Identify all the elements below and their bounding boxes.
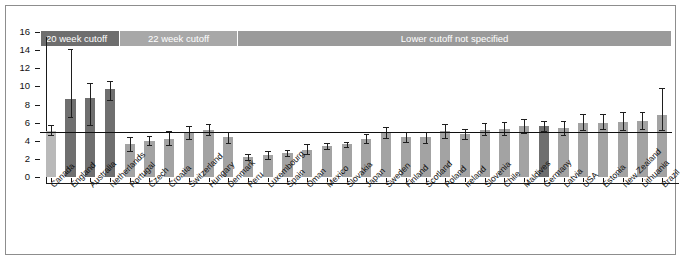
y-axis-tick [35, 105, 40, 106]
error-bar-cap-upper [245, 154, 251, 155]
y-axis-tick-label: 10 [8, 81, 30, 90]
y-axis-tick-label: 12 [8, 63, 30, 72]
error-bar [583, 114, 584, 130]
error-bar-cap-upper [364, 134, 370, 135]
y-axis-tick [35, 86, 40, 87]
y-axis-tick [35, 32, 40, 33]
y-axis-tick-label: 14 [8, 45, 30, 54]
reference-line [40, 132, 672, 134]
error-bar-cap-upper [265, 151, 271, 152]
error-bar-cap-upper [521, 119, 527, 120]
y-axis-tick [35, 159, 40, 160]
error-bar-cap-upper [462, 129, 468, 130]
bar [46, 131, 56, 177]
error-bar-cap-upper [344, 142, 350, 143]
y-axis-tick [35, 50, 40, 51]
error-bar-cap-lower [147, 145, 153, 146]
error-bar-cap-lower [600, 129, 606, 130]
y-axis-tick-label: 2 [8, 154, 30, 163]
error-bar [642, 112, 643, 129]
error-bar-cap-lower [324, 149, 330, 150]
error-bar-cap-lower [186, 139, 192, 140]
y-axis-tick [35, 123, 40, 124]
error-bar-cap-lower [383, 138, 389, 139]
error-bar-cap-upper [383, 127, 389, 128]
error-bar [465, 129, 466, 139]
error-bar-cap-upper [580, 114, 586, 115]
error-bar-cap-lower [640, 129, 646, 130]
error-bar-cap-upper [620, 112, 626, 113]
y-axis-tick-label: 16 [8, 27, 30, 36]
y-axis-tick [35, 141, 40, 142]
error-bar-cap-upper [502, 122, 508, 123]
error-bar-cap-lower [107, 100, 113, 101]
figure-frame: 20 week cutoff22 week cutoffLower cutoff… [5, 5, 676, 255]
y-axis-tick-label: 4 [8, 136, 30, 145]
error-bar [149, 136, 150, 145]
y-axis-tick-label: 6 [8, 118, 30, 127]
error-bar-cap-lower [48, 135, 54, 136]
error-bar-cap-upper [600, 114, 606, 115]
error-bar-cap-lower [206, 135, 212, 136]
error-bar [623, 112, 624, 130]
error-bar [209, 124, 210, 136]
error-bar [366, 134, 367, 143]
error-bar [228, 132, 229, 143]
error-bar [524, 119, 525, 133]
error-bar-cap-upper [482, 123, 488, 124]
error-bar-cap-lower [226, 143, 232, 144]
error-bar-cap-upper [127, 137, 133, 138]
chart-screenshot: 20 week cutoff22 week cutoffLower cutoff… [0, 0, 683, 262]
error-bar-cap-lower [502, 135, 508, 136]
error-bar-cap-upper [285, 150, 291, 151]
error-bar-cap-lower [364, 143, 370, 144]
error-bar-cap-upper [304, 144, 310, 145]
error-bar [485, 123, 486, 136]
error-bar-cap-upper [107, 81, 113, 82]
error-bar [307, 144, 308, 154]
error-bar-cap-lower [403, 142, 409, 143]
error-bar-cap-upper [640, 112, 646, 113]
error-bar-cap-lower [68, 117, 74, 118]
y-axis-tick [35, 68, 40, 69]
error-bar-cap-lower [482, 135, 488, 136]
error-bar [426, 132, 427, 143]
error-bar [662, 88, 663, 130]
error-bar [110, 81, 111, 100]
error-bar-cap-upper [442, 124, 448, 125]
error-bar-cap-upper [68, 49, 74, 50]
error-bar-cap-upper [87, 83, 93, 84]
error-bar-cap-lower [462, 139, 468, 140]
error-bar-cap-upper [186, 126, 192, 127]
error-bar-cap-upper [324, 143, 330, 144]
error-bar [71, 49, 72, 117]
error-bar-cap-upper [206, 124, 212, 125]
error-bar-cap-lower [423, 143, 429, 144]
error-bar [603, 114, 604, 129]
error-bar-cap-upper [147, 136, 153, 137]
error-bar-cap-upper [48, 125, 54, 126]
y-axis-tick-label: 8 [8, 100, 30, 109]
error-bar-cap-upper [561, 121, 567, 122]
error-bar [268, 151, 269, 159]
y-axis-tick [35, 177, 40, 178]
error-bar-cap-upper [659, 88, 665, 89]
error-bar-cap-lower [87, 125, 93, 126]
error-bar [130, 137, 131, 151]
y-axis-tick-label: 0 [8, 172, 30, 181]
error-bar-cap-lower [442, 138, 448, 139]
error-bar-cap-lower [166, 145, 172, 146]
error-bar-cap-lower [344, 147, 350, 148]
bar [519, 126, 529, 177]
error-bar [544, 121, 545, 131]
error-bar-cap-lower [265, 159, 271, 160]
error-bar [90, 83, 91, 126]
error-bar-cap-lower [561, 135, 567, 136]
error-bar [51, 125, 52, 135]
error-bar-cap-upper [541, 121, 547, 122]
error-bar-cap-lower [127, 151, 133, 152]
